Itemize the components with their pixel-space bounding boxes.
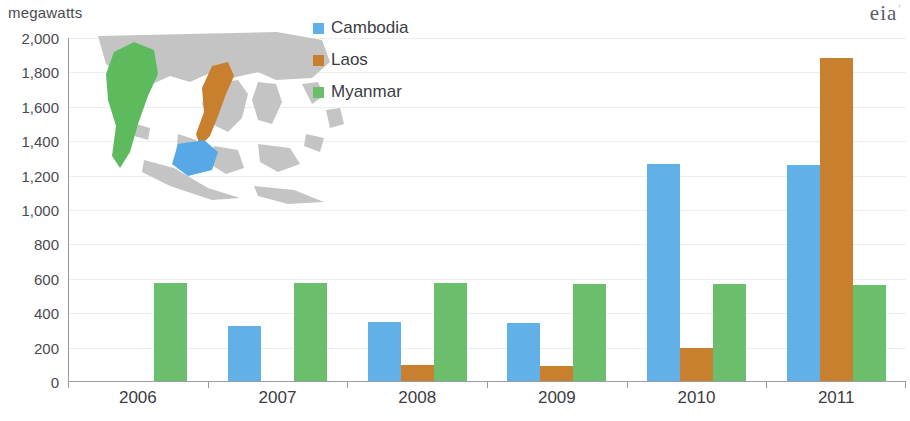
y-axis-tick-label: 1,200 [0, 167, 59, 184]
y-axis-tick-label: 600 [0, 270, 59, 287]
chart-legend: Cambodia Laos Myanmar [313, 18, 409, 102]
bar-myanmar-2006[interactable] [154, 283, 187, 382]
y-axis-tick-label: 2,000 [0, 30, 59, 47]
bar-laos-2009[interactable] [540, 366, 573, 382]
legend-label: Laos [331, 50, 368, 70]
eia-logo-mark: ’ [897, 2, 902, 14]
bar-cambodia-2011[interactable] [787, 165, 820, 382]
bar-groups [68, 38, 906, 382]
bar-myanmar-2007[interactable] [294, 283, 327, 382]
bar-group-2011 [766, 38, 906, 382]
y-axis-tick-label: 1,600 [0, 98, 59, 115]
bar-cambodia-2010[interactable] [647, 164, 680, 382]
legend-item-laos: Laos [313, 50, 409, 70]
x-axis-label-2008: 2008 [347, 388, 487, 418]
y-axis-tick-label: 200 [0, 339, 59, 356]
bar-group-2010 [627, 38, 767, 382]
plot-area: 2,0001,8001,6001,4001,2001,0008006004002… [68, 38, 906, 382]
bar-laos-2011[interactable] [820, 58, 853, 382]
bar-cambodia-2009[interactable] [507, 323, 540, 382]
bar-laos-2010[interactable] [680, 348, 713, 382]
y-axis-tick-label: 1,800 [0, 64, 59, 81]
legend-swatch-icon [313, 23, 324, 34]
bar-laos-2008[interactable] [401, 365, 434, 382]
legend-swatch-icon [313, 87, 324, 98]
x-axis-line [68, 381, 906, 382]
y-axis-tick-label: 0 [0, 374, 59, 391]
bar-cambodia-2008[interactable] [368, 322, 401, 382]
x-axis-label-2011: 2011 [766, 388, 906, 418]
x-axis-labels: 200620072008200920102011 [68, 388, 906, 418]
y-axis-line [68, 38, 69, 382]
legend-label: Cambodia [331, 18, 409, 38]
legend-label: Myanmar [331, 82, 402, 102]
y-axis-tick-label: 800 [0, 236, 59, 253]
y-axis-tick-label: 1,400 [0, 133, 59, 150]
bar-myanmar-2010[interactable] [713, 284, 746, 382]
x-axis-label-2010: 2010 [627, 388, 767, 418]
legend-item-cambodia: Cambodia [313, 18, 409, 38]
bar-myanmar-2008[interactable] [434, 283, 467, 382]
y-axis-tick-label: 400 [0, 305, 59, 322]
bar-group-2006 [68, 38, 208, 382]
bar-myanmar-2011[interactable] [853, 285, 886, 382]
legend-swatch-icon [313, 55, 324, 66]
eia-logo-text: eia [870, 1, 897, 25]
legend-item-myanmar: Myanmar [313, 82, 409, 102]
bar-cambodia-2007[interactable] [228, 326, 261, 382]
y-axis-unit-label: megawatts [8, 4, 82, 21]
x-axis-label-2007: 2007 [208, 388, 348, 418]
y-axis-tick-label: 1,000 [0, 202, 59, 219]
x-axis-label-2009: 2009 [487, 388, 627, 418]
eia-logo: eia’ [870, 1, 902, 26]
bar-myanmar-2009[interactable] [573, 284, 606, 382]
bar-group-2009 [487, 38, 627, 382]
x-axis-label-2006: 2006 [68, 388, 208, 418]
chart-root: megawatts eia’ [0, 0, 910, 421]
